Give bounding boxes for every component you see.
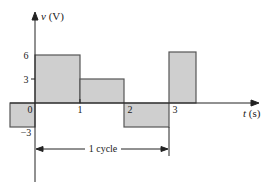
x-axis-arrow-icon	[251, 100, 259, 106]
segment-0-1	[35, 55, 80, 103]
xtick-label-1: 1	[78, 104, 83, 115]
ytick-label-m3: −3	[21, 127, 32, 138]
xtick-label-2: 2	[128, 104, 133, 115]
cycle-label: 1 cycle	[89, 143, 118, 154]
waveform-fill	[10, 52, 196, 127]
cycle-right-arrow-icon	[161, 147, 168, 152]
cycle-left-arrow-icon	[36, 147, 43, 152]
segment-1-2	[80, 79, 124, 103]
xtick-label-0: 0	[28, 104, 33, 115]
y-axis-arrow-icon	[32, 12, 38, 20]
ytick-label-6: 6	[24, 50, 29, 61]
xtick-label-3: 3	[173, 104, 178, 115]
x-axis-label: t (s)	[243, 107, 261, 120]
waveform-diagram: v (V) t (s) 6 3 −3 0 1 2 3 1 cycle	[0, 0, 275, 192]
ytick-label-3: 3	[24, 74, 29, 85]
y-axis-label: v (V)	[41, 10, 64, 23]
segment-3-post	[169, 52, 196, 103]
